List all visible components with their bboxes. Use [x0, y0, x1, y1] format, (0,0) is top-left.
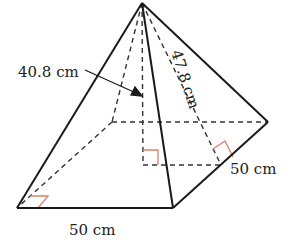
base-front-label: 50 cm: [69, 221, 115, 239]
base-side-label: 50 cm: [230, 160, 276, 178]
front-left-edge: [17, 3, 142, 208]
front-right-edge: [142, 3, 173, 208]
right-angle-marks: [30, 141, 233, 208]
height-line: [142, 3, 143, 165]
pyramid-diagram: 40.8 cm 47.8 cm 50 cm 50 cm: [0, 0, 294, 240]
arrowhead-icon: [131, 87, 142, 96]
right-angle-slant: [213, 141, 233, 157]
base-left-edge: [17, 122, 112, 208]
right-angle-center: [143, 150, 158, 165]
back-right-edge: [142, 3, 268, 122]
slant-height-label: 47.8 cm: [167, 48, 203, 111]
back-left-edge: [112, 3, 142, 122]
right-angle-corner: [30, 196, 48, 208]
height-label: 40.8 cm: [18, 63, 79, 81]
